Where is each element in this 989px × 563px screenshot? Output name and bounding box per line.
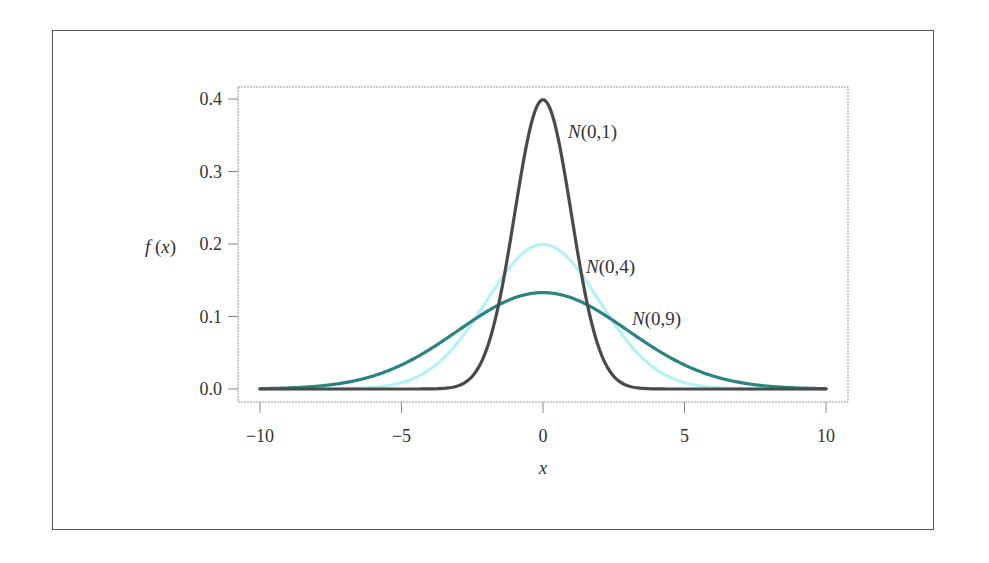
x-tick-label: −10: [246, 426, 274, 446]
curve-n-0-4: [260, 244, 826, 389]
normal-density-chart: 0.00.10.20.30.4 −10−50510 N(0,1)N(0,4)N(…: [0, 0, 989, 563]
curves: [260, 100, 826, 389]
x-tick-label: −5: [392, 426, 411, 446]
curve-label: N(0,9): [631, 308, 681, 330]
curve-label: N(0,1): [567, 121, 617, 143]
x-tick-label: 10: [817, 426, 835, 446]
x-axis-title: x: [538, 457, 548, 478]
y-tick-label: 0.1: [200, 307, 223, 327]
y-axis: 0.00.10.20.30.4: [200, 89, 239, 399]
y-tick-label: 0.3: [200, 162, 223, 182]
x-tick-label: 5: [680, 426, 689, 446]
y-tick-label: 0.2: [200, 234, 223, 254]
y-tick-label: 0.4: [200, 89, 223, 109]
curve-label: N(0,4): [585, 256, 635, 278]
curve-labels: N(0,1)N(0,4)N(0,9): [567, 121, 681, 330]
y-axis-title: f (x): [145, 236, 176, 258]
y-tick-label: 0.0: [200, 379, 223, 399]
curve-n-0-9: [260, 293, 826, 389]
x-axis: −10−50510: [246, 402, 835, 446]
x-tick-label: 0: [539, 426, 548, 446]
